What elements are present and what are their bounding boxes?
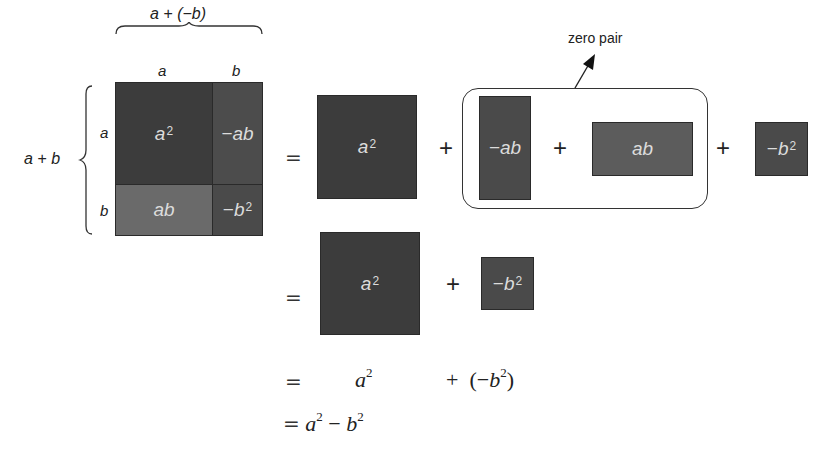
exp: 2 [500, 365, 507, 380]
cell-base: ab [232, 123, 253, 145]
equals-sign: = [285, 372, 302, 392]
cell-sign: − [223, 199, 234, 221]
equals-sign: = [283, 412, 300, 436]
cell-sign: − [221, 123, 232, 145]
tile-base: ab [632, 138, 653, 160]
tile-exp: 2 [790, 139, 797, 153]
plus-sign: + [446, 367, 458, 392]
cell-base: b [234, 199, 245, 221]
exp: 2 [316, 409, 323, 424]
exp: 2 [357, 409, 364, 424]
tile-neg-ab: −ab [479, 96, 531, 200]
side-brace-label: a + b [24, 150, 60, 168]
close-paren: ) [507, 367, 514, 392]
var-b: b [346, 411, 357, 436]
tile-exp: 2 [372, 274, 379, 288]
tile-base: b [504, 273, 515, 295]
grid-cell-neg-b-squared: −b2 [212, 184, 263, 236]
side-brace-icon [78, 84, 94, 236]
tile-base: ab [500, 137, 521, 159]
cell-base: ab [153, 199, 174, 221]
tile-base: b [778, 138, 789, 160]
tile-a-squared: a2 [317, 95, 417, 199]
var-b: b [489, 367, 500, 392]
zero-pair-label: zero pair [568, 30, 622, 46]
expr-difference-of-squares: = a2 − b2 [283, 412, 364, 435]
expr-a-squared: a2 [355, 368, 373, 391]
cell-exp: 2 [246, 200, 253, 214]
tile-ab: ab [592, 122, 693, 176]
var-a: a [305, 411, 316, 436]
tile-neg-b-squared: −b2 [755, 122, 808, 176]
plus-sign: + [446, 272, 460, 296]
top-brace-icon [113, 22, 265, 62]
top-brace-label: a + (−b) [150, 5, 206, 23]
tile-a-squared: a2 [320, 232, 420, 335]
minus-sign: − [328, 411, 340, 436]
plus-sign: + [553, 136, 567, 160]
tile-exp: 2 [516, 274, 523, 288]
row-label-b: b [100, 202, 108, 219]
grid-cell-neg-ab: −ab [212, 82, 263, 185]
tile-sign: − [767, 138, 778, 160]
grid-cell-ab: ab [115, 184, 213, 236]
cell-base: a [155, 123, 166, 145]
tile-exp: 2 [369, 137, 376, 151]
equals-sign: = [285, 288, 302, 308]
plus-sign: + [439, 136, 453, 160]
row-label-a: a [100, 124, 108, 141]
col-label-b: b [232, 62, 240, 79]
grid-cell-a-squared: a2 [115, 82, 213, 185]
col-label-a: a [158, 62, 166, 79]
cell-exp: 2 [166, 124, 173, 138]
tile-sign: − [493, 273, 504, 295]
open-paren: (− [469, 367, 489, 392]
equals-sign: = [285, 148, 302, 168]
tile-base: a [358, 136, 369, 158]
var-a: a [355, 367, 366, 392]
plus-sign: + [716, 136, 730, 160]
tile-sign: − [489, 137, 500, 159]
tile-neg-b-squared: −b2 [481, 257, 534, 310]
exp: 2 [366, 365, 373, 380]
expr-plus-neg-b-squared: + (−b2) [446, 368, 514, 391]
arrow-icon [570, 50, 600, 90]
tile-base: a [361, 273, 372, 295]
